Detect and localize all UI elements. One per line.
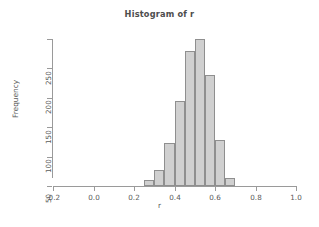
x-axis-tick (53, 186, 54, 191)
histogram-plot: Histogram of r Frequency r 0501001502002… (0, 0, 319, 227)
x-axis-tick-label: 0.2 (128, 193, 139, 202)
chart-title: Histogram of r (0, 9, 319, 19)
histogram-bar (175, 101, 185, 186)
x-axis-tick (94, 186, 95, 191)
x-axis-tick-label: 1.0 (290, 193, 301, 202)
histogram-bar (164, 143, 174, 186)
histogram-bar (185, 51, 195, 186)
x-axis-tick (175, 186, 176, 191)
x-axis-tick (134, 186, 135, 191)
y-axis-label: Frequency (11, 24, 20, 62)
y-axis-label-text: Frequency (11, 80, 20, 118)
histogram-bar (225, 178, 235, 186)
histogram-bar (205, 75, 215, 186)
histogram-bar (154, 170, 164, 186)
x-axis-tick-label: -0.2 (46, 193, 60, 202)
histogram-bar (215, 140, 225, 186)
x-axis-tick-label: 0.6 (209, 193, 220, 202)
y-axis-tick (47, 39, 52, 40)
y-axis-tick-label: 250 (44, 41, 53, 85)
x-axis-tick-label: 0.4 (169, 193, 180, 202)
x-axis-tick (296, 186, 297, 191)
histogram-bar (195, 39, 205, 186)
x-axis-tick-label: 0.0 (88, 193, 99, 202)
x-axis-tick (215, 186, 216, 191)
x-axis-tick (256, 186, 257, 191)
x-axis-tick-label: 0.8 (250, 193, 261, 202)
